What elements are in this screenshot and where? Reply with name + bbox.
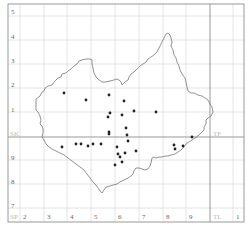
record-point bbox=[127, 140, 130, 143]
easting-label: 5 bbox=[94, 213, 98, 221]
record-point bbox=[191, 136, 194, 139]
easting-label: 7 bbox=[142, 213, 146, 221]
northing-label: 7 bbox=[11, 202, 15, 210]
grid-square-label: SK bbox=[10, 130, 19, 138]
record-point bbox=[87, 145, 90, 148]
northing-label: 5 bbox=[11, 8, 15, 16]
record-point bbox=[119, 156, 122, 159]
grid-square-label: SP bbox=[10, 213, 18, 221]
record-point bbox=[100, 143, 103, 146]
record-point bbox=[121, 161, 124, 164]
northing-labels: 54321987 bbox=[11, 8, 15, 210]
record-point bbox=[174, 148, 177, 151]
record-point bbox=[173, 144, 176, 147]
easting-label: 8 bbox=[166, 213, 170, 221]
grid-square-label: TF bbox=[213, 130, 221, 138]
record-point bbox=[126, 134, 129, 137]
record-point bbox=[121, 114, 124, 117]
northing-label: 1 bbox=[11, 106, 15, 114]
grid-square-label: TL bbox=[213, 213, 222, 221]
record-point bbox=[107, 116, 110, 119]
easting-label: 2 bbox=[23, 213, 27, 221]
record-point bbox=[125, 127, 128, 130]
easting-label: 9 bbox=[189, 213, 193, 221]
distribution-map: 54321987 234567891 SKTFSPTL bbox=[0, 0, 248, 227]
record-point bbox=[114, 164, 117, 167]
record-point bbox=[135, 150, 138, 153]
record-point bbox=[61, 146, 64, 149]
northing-label: 9 bbox=[11, 154, 15, 162]
record-point bbox=[133, 110, 136, 113]
record-point bbox=[63, 92, 66, 95]
easting-label: 1 bbox=[236, 213, 240, 221]
record-point bbox=[116, 146, 119, 149]
northing-label: 2 bbox=[11, 81, 15, 89]
record-point bbox=[182, 145, 185, 148]
easting-label: 4 bbox=[70, 213, 74, 221]
record-point bbox=[117, 153, 120, 156]
easting-label: 3 bbox=[47, 213, 51, 221]
record-point bbox=[80, 143, 83, 146]
easting-label: 6 bbox=[118, 213, 122, 221]
northing-label: 8 bbox=[11, 178, 15, 186]
record-point bbox=[92, 143, 95, 146]
map-background bbox=[0, 0, 248, 227]
record-point bbox=[109, 112, 112, 115]
record-point bbox=[108, 133, 111, 136]
record-point bbox=[123, 100, 126, 103]
northing-label: 3 bbox=[11, 57, 15, 65]
record-point bbox=[124, 152, 127, 155]
record-point bbox=[75, 143, 78, 146]
record-point bbox=[85, 99, 88, 102]
record-point bbox=[155, 111, 158, 114]
record-point bbox=[108, 94, 111, 97]
northing-label: 4 bbox=[11, 33, 15, 41]
